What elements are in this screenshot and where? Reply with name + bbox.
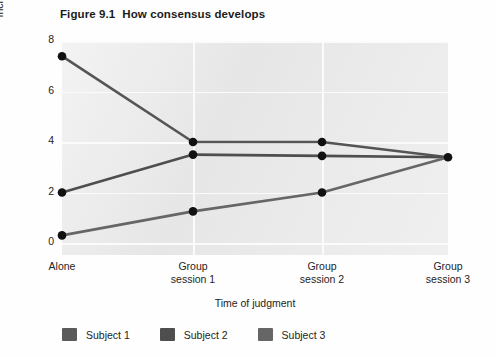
data-point-subject-2-session-1 <box>189 150 198 159</box>
legend-label-subject-3: Subject 3 <box>282 329 326 341</box>
data-point-subject-1-session-1 <box>189 138 198 147</box>
x-tick-group-session-3: Group session 3 <box>400 260 496 285</box>
x-tick-alone-line1: Alone <box>49 260 76 272</box>
y-tick-4: 4 <box>28 134 54 146</box>
data-point-subject-2-session-2 <box>318 152 327 161</box>
x-tick-group-session-1-line1: Group <box>178 260 207 272</box>
legend-label-subject-1: Subject 1 <box>86 329 130 341</box>
data-point-subject-3-session-2 <box>318 188 327 197</box>
x-tick-group-session-1: Group session 1 <box>145 260 241 285</box>
y-tick-6: 6 <box>28 84 54 96</box>
data-point-subject-3-alone <box>58 231 67 240</box>
legend-label-subject-2: Subject 2 <box>184 329 228 341</box>
x-tick-group-session-2: Group session 2 <box>274 260 370 285</box>
legend-item-subject-2[interactable]: Subject 2 <box>160 328 228 341</box>
figure-number: Figure 9.1 <box>60 8 115 20</box>
data-point-subject-3-session-1 <box>189 207 198 216</box>
x-tick-group-session-3-line1: Group <box>433 260 462 272</box>
legend-swatch-icon-subject-1 <box>62 328 77 341</box>
y-axis-title: Inches of estimated movement <box>0 0 5 56</box>
figure-title-text: How consensus develops <box>122 8 265 20</box>
x-tick-group-session-1-line2: session 1 <box>145 273 241 286</box>
y-tick-0: 0 <box>28 235 54 247</box>
legend-swatch-icon-subject-2 <box>160 328 175 341</box>
x-axis-title: Time of judgment <box>62 297 448 309</box>
x-tick-group-session-2-line2: session 2 <box>274 273 370 286</box>
data-point-subject-2-alone <box>58 188 67 197</box>
y-tick-8: 8 <box>28 33 54 45</box>
series-plot <box>62 41 448 255</box>
series-line-subject-1 <box>62 56 448 157</box>
x-tick-group-session-2-line1: Group <box>307 260 336 272</box>
legend-item-subject-3[interactable]: Subject 3 <box>258 328 326 341</box>
series-line-subject-3 <box>62 157 448 235</box>
x-tick-alone: Alone <box>14 260 110 273</box>
x-tick-group-session-3-line2: session 3 <box>400 273 496 286</box>
data-point-subject-1-session-2 <box>318 138 327 147</box>
data-point-subject-1-alone <box>58 52 67 61</box>
data-point-convergence-session-3 <box>444 153 453 162</box>
figure-container: Figure 9.1How consensus develops Inches … <box>0 0 496 357</box>
legend-item-subject-1[interactable]: Subject 1 <box>62 328 130 341</box>
y-tick-2: 2 <box>28 185 54 197</box>
plot-area <box>62 41 448 255</box>
figure-title: Figure 9.1How consensus develops <box>60 8 265 20</box>
chart-legend: Subject 1 Subject 2 Subject 3 <box>62 328 355 341</box>
legend-swatch-icon-subject-3 <box>258 328 273 341</box>
